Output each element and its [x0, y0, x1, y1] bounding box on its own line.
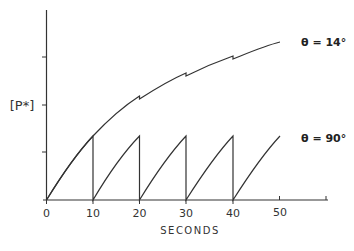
- y-axis-label: [P*]: [10, 98, 34, 113]
- series-label-14: θ = 14°: [301, 36, 346, 49]
- series-theta-14: [47, 42, 281, 200]
- x-tick-label-30: 30: [179, 207, 193, 220]
- x-tick-label-40: 40: [226, 207, 240, 220]
- series-theta-90: [47, 136, 281, 200]
- y-ticks: [42, 57, 47, 152]
- series-label-90: θ = 90°: [301, 132, 346, 145]
- x-tick-label-20: 20: [133, 207, 147, 220]
- x-tick-label-10: 10: [86, 207, 100, 220]
- chart: 0 10 20 30 40 50 SECONDS [P*] θ = 14° θ …: [0, 0, 354, 251]
- x-tick-label-0: 0: [43, 207, 50, 220]
- x-axis-label: SECONDS: [160, 225, 220, 236]
- x-tick-label-50: 50: [273, 206, 287, 219]
